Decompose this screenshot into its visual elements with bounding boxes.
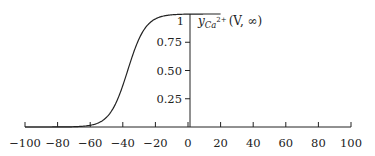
label-sup: 2+: [216, 16, 226, 24]
x-axis: −100−80−60−40−20020406080100: [9, 122, 362, 150]
x-tick-label: −20: [143, 136, 167, 150]
x-tick-label: −80: [45, 136, 69, 150]
y-tick-label: 0.75: [156, 35, 182, 49]
y-tick-label: 0.25: [156, 92, 182, 106]
chart: −100−80−60−40−20020406080100 0.250.500.7…: [0, 0, 375, 156]
y-axis: 0.250.500.751: [156, 14, 190, 127]
y-tick-label: 1: [177, 14, 184, 28]
x-tick-label: 60: [278, 136, 293, 150]
sigmoid-curve: [25, 14, 221, 127]
label-tail: (V, ∞): [229, 14, 263, 28]
x-tick-label: 80: [311, 136, 326, 150]
x-tick-label: 20: [213, 136, 228, 150]
x-tick-label: 40: [246, 136, 261, 150]
x-tick-label: −60: [78, 136, 102, 150]
x-tick-label: 100: [340, 136, 362, 150]
x-tick-label: 0: [184, 136, 191, 150]
y-tick-label: 0.50: [156, 64, 182, 78]
x-tick-label: −100: [9, 136, 41, 150]
x-tick-label: −40: [111, 136, 135, 150]
series-label: yCa2+(V, ∞): [197, 14, 262, 30]
label-sub: Ca: [205, 20, 217, 30]
